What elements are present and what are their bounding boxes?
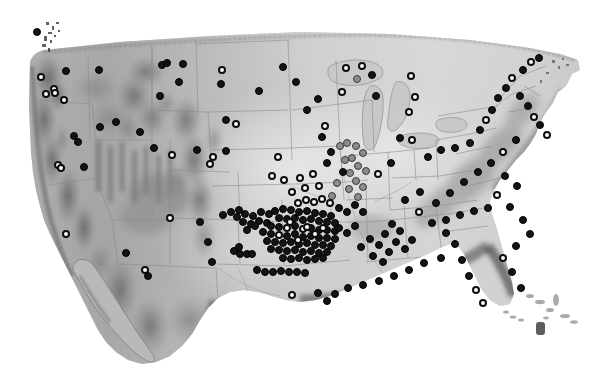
basemap-shaded-relief <box>0 0 603 375</box>
map-figure <box>0 0 603 375</box>
